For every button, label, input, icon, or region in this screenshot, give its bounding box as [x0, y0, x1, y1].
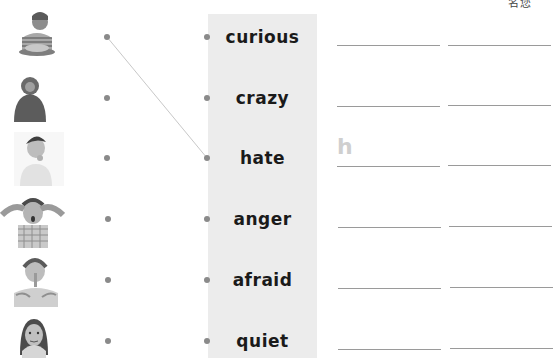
answer-line-4b[interactable] [449, 226, 552, 227]
answer-line-1b[interactable] [448, 45, 551, 46]
word-panel [208, 14, 317, 358]
hooded-figure-photo [10, 72, 50, 124]
answer-line-1a[interactable] [337, 45, 440, 46]
picture-dot-1[interactable] [104, 34, 110, 40]
picture-dot-2[interactable] [104, 95, 110, 101]
angry-child-photo [0, 193, 65, 248]
answer-line-3a[interactable] [337, 166, 440, 167]
answer-line-5b[interactable] [450, 287, 553, 288]
thinking-girl-photo [14, 132, 64, 186]
header-fragment: 名您 [508, 0, 532, 10]
picture-dot-3[interactable] [104, 155, 110, 161]
connector-line [107, 37, 207, 158]
answer-line-2a[interactable] [337, 106, 440, 107]
answer-line-2b[interactable] [448, 105, 551, 106]
word-crazy: crazy [208, 88, 317, 108]
answer-line-6a[interactable] [338, 349, 441, 350]
word-hate: hate [208, 148, 317, 168]
boy-with-food-photo [12, 8, 62, 62]
scared-girl-photo [14, 315, 54, 358]
picture-dot-5[interactable] [105, 277, 111, 283]
hint-letter: h [337, 134, 353, 159]
word-anger: anger [208, 209, 317, 229]
word-quiet: quiet [208, 331, 317, 351]
answer-line-3b[interactable] [448, 165, 551, 166]
word-curious: curious [208, 27, 317, 47]
answer-line-4a[interactable] [338, 227, 441, 228]
word-afraid: afraid [208, 270, 317, 290]
picture-dot-4[interactable] [105, 216, 111, 222]
shushing-girl-photo [10, 253, 62, 309]
answer-line-5a[interactable] [338, 288, 441, 289]
picture-dot-6[interactable] [105, 338, 111, 344]
answer-line-6b[interactable] [450, 348, 553, 349]
